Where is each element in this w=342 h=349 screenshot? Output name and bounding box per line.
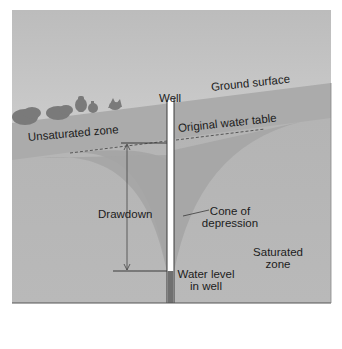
water-level-line2: in well <box>174 280 238 292</box>
water-level-label: Water level in well <box>174 268 238 292</box>
well-water <box>168 271 174 303</box>
cross-section-illustration <box>0 0 342 349</box>
cone-label-line2: depression <box>200 217 260 229</box>
saturated-zone-label: Saturated zone <box>250 246 306 270</box>
water-level-line1: Water level <box>174 268 238 280</box>
cone-label-line1: Cone of <box>200 205 260 217</box>
well-label: Well <box>159 92 181 104</box>
saturated-label-line2: zone <box>250 258 306 270</box>
saturated-label-line1: Saturated <box>250 246 306 258</box>
drawdown-label: Drawdown <box>98 208 152 220</box>
cone-of-depression-label: Cone of depression <box>200 205 260 229</box>
diagram-canvas: Well Ground surface Unsaturated zone Ori… <box>0 0 342 349</box>
